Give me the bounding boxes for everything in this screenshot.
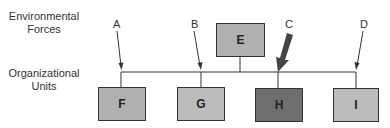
force-label-c: C: [285, 18, 293, 30]
force-arrow-c: [276, 33, 293, 72]
unit-box-f: F: [98, 87, 146, 121]
force-arrow-a: [117, 31, 124, 70]
label-line: Units: [6, 80, 82, 93]
force-label-b: B: [191, 18, 198, 30]
unit-box-h: H: [255, 88, 303, 122]
unit-box-e: E: [216, 23, 265, 57]
organizational-units-label: Organizational Units: [6, 67, 82, 93]
label-line: Forces: [8, 23, 80, 36]
label-line: Environmental: [8, 10, 80, 23]
unit-box-i: I: [333, 88, 379, 122]
label-line: Organizational: [6, 67, 82, 80]
force-label-a: A: [113, 18, 120, 30]
environmental-forces-label: Environmental Forces: [8, 10, 80, 36]
force-arrow-b: [194, 31, 203, 70]
force-arrow-d: [355, 31, 364, 70]
unit-box-g: G: [177, 87, 225, 121]
force-label-d: D: [360, 18, 368, 30]
